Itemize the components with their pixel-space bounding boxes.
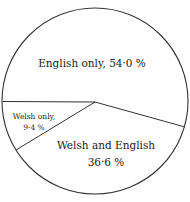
slice-english-only: English only, 54·0 % <box>38 57 146 69</box>
slice-value-welsh-only: 9·4 % <box>23 123 44 132</box>
slice-label-english-only: English only, 54·0 % <box>38 57 146 69</box>
slice-value-welsh-and-english: 36·6 % <box>88 156 125 168</box>
pie-chart: English only, 54·0 % Welsh only, 9·4 % W… <box>0 0 190 202</box>
divider-english-welsh-only <box>3 102 96 103</box>
slice-label-welsh-and-english: Welsh and English <box>57 139 155 151</box>
slice-label-welsh-only: Welsh only, <box>13 112 55 121</box>
